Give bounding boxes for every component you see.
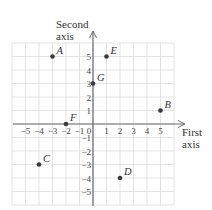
x-tick-label: −3 bbox=[48, 126, 58, 136]
y-tick-label: 5 bbox=[87, 52, 92, 62]
x-tick-label: −2 bbox=[61, 126, 71, 136]
y-axis-title-line2: axis bbox=[56, 30, 74, 42]
point-a-label: A bbox=[56, 45, 64, 56]
x-tick-label: −5 bbox=[21, 126, 31, 136]
point-d-label: D bbox=[123, 166, 132, 177]
point-b-label: B bbox=[165, 99, 172, 110]
point-f-label: F bbox=[69, 112, 77, 123]
point-d-dot bbox=[118, 176, 123, 181]
x-tick-label: 5 bbox=[158, 126, 163, 136]
point-g-dot bbox=[91, 81, 96, 86]
y-tick-label: −4 bbox=[81, 174, 91, 184]
point-g-label: G bbox=[97, 72, 105, 83]
coordinate-plane: −5−4−3−2−1012345−5−4−3−2−112345 ABCDEFG … bbox=[0, 0, 212, 210]
point-c-label: C bbox=[43, 153, 51, 164]
x-tick-label: 4 bbox=[145, 126, 150, 136]
y-tick-label: −5 bbox=[81, 187, 91, 197]
point-e-dot bbox=[104, 54, 109, 59]
x-tick-label: 3 bbox=[131, 126, 136, 136]
x-tick-label: 2 bbox=[118, 126, 123, 136]
y-axis-title-line1: Second bbox=[56, 18, 89, 30]
y-tick-label: 1 bbox=[87, 106, 92, 116]
point-e-label: E bbox=[110, 45, 118, 56]
y-tick-label: 3 bbox=[87, 79, 92, 89]
point-b-dot bbox=[158, 108, 163, 113]
point-f-dot bbox=[64, 122, 69, 127]
y-tick-label: 4 bbox=[87, 66, 92, 76]
x-axis-title-line2: axis bbox=[182, 138, 200, 150]
y-tick-label: −3 bbox=[81, 160, 91, 170]
y-tick-label: −2 bbox=[81, 147, 91, 157]
y-tick-label: 2 bbox=[87, 93, 92, 103]
point-a-dot bbox=[50, 54, 55, 59]
points: ABCDEFG bbox=[37, 45, 172, 181]
x-axis-title-line1: First bbox=[182, 126, 202, 138]
y-tick-label: −1 bbox=[81, 133, 91, 143]
point-c-dot bbox=[37, 162, 42, 167]
x-tick-label: −4 bbox=[34, 126, 44, 136]
x-tick-label: 1 bbox=[104, 126, 109, 136]
